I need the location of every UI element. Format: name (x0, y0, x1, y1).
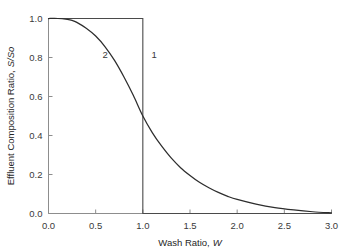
y-tick-label: 0.8 (29, 52, 42, 63)
x-tick-label: 3.0 (325, 220, 338, 231)
y-tick-label: 0.0 (29, 208, 42, 219)
chart-figure: 0.00.51.01.52.02.53.0 0.00.20.40.60.81.0… (0, 0, 345, 252)
series-label-2: 2 (102, 49, 107, 60)
y-axis-title: Effluent Composition Ratio,S/So (5, 47, 16, 186)
series-line-ideal-step (49, 19, 332, 214)
y-tick-label: 1.0 (29, 13, 42, 24)
x-tick-label: 1.0 (136, 220, 149, 231)
y-tick-label: 0.4 (29, 130, 42, 141)
series-line-washing-curve (49, 18, 332, 212)
series-label-1: 1 (152, 49, 157, 60)
x-tick-label: 0.5 (89, 220, 102, 231)
y-axis-ticks (49, 19, 53, 214)
x-tick-label: 1.5 (183, 220, 196, 231)
y-tick-label: 0.6 (29, 91, 42, 102)
x-tick-label: 0.0 (42, 220, 55, 231)
washing-curve-chart: 0.00.51.01.52.02.53.0 0.00.20.40.60.81.0… (0, 0, 345, 252)
y-axis-tick-labels: 0.00.20.40.60.81.0 (29, 13, 42, 219)
x-axis-tick-labels: 0.00.51.01.52.02.53.0 (42, 220, 338, 231)
x-axis-title: Wash Ratio,W (158, 237, 222, 248)
x-tick-label: 2.0 (231, 220, 244, 231)
x-tick-label: 2.5 (278, 220, 291, 231)
y-tick-label: 0.2 (29, 169, 42, 180)
x-axis-ticks (49, 210, 332, 214)
